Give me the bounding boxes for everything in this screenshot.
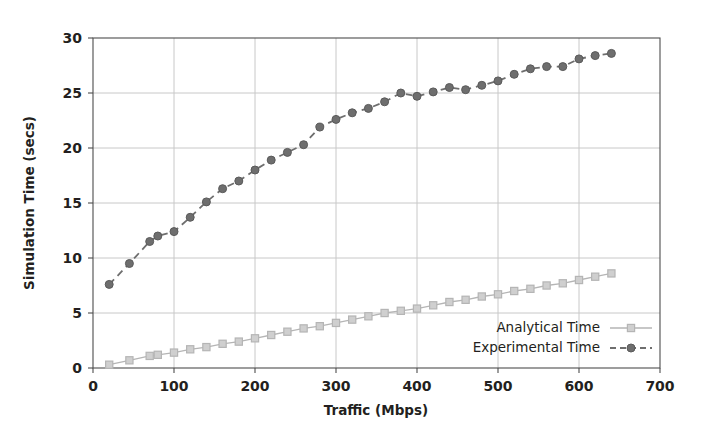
data-point-marker xyxy=(445,84,453,92)
data-point-marker xyxy=(235,338,242,345)
data-point-marker xyxy=(430,302,437,309)
data-point-marker xyxy=(397,307,404,314)
data-point-marker xyxy=(462,296,469,303)
x-tick-label: 600 xyxy=(564,378,593,394)
data-point-marker xyxy=(365,313,372,320)
data-point-marker xyxy=(413,92,421,100)
data-point-marker xyxy=(267,156,275,164)
data-point-marker xyxy=(397,89,405,97)
data-point-marker xyxy=(126,357,133,364)
data-point-marker xyxy=(332,115,340,123)
data-point-marker xyxy=(146,352,153,359)
data-point-marker xyxy=(510,70,518,78)
data-point-marker xyxy=(559,280,566,287)
data-point-marker xyxy=(154,351,161,358)
data-point-marker xyxy=(591,52,599,60)
data-point-marker xyxy=(413,305,420,312)
x-axis-title: Traffic (Mbps) xyxy=(324,402,428,418)
data-point-marker xyxy=(527,285,534,292)
data-point-marker xyxy=(316,323,323,330)
x-tick-label: 0 xyxy=(88,378,98,394)
data-point-marker xyxy=(348,109,356,117)
data-point-marker xyxy=(559,63,567,71)
data-point-marker xyxy=(284,328,291,335)
data-point-marker xyxy=(106,361,113,368)
x-tick-label: 200 xyxy=(240,378,269,394)
data-point-marker xyxy=(349,316,356,323)
data-point-marker xyxy=(170,228,178,236)
data-point-marker xyxy=(316,123,324,131)
data-point-marker xyxy=(219,340,226,347)
y-tick-label: 25 xyxy=(63,85,82,101)
chart-figure: 0100200300400500600700051015202530 Traff… xyxy=(0,0,706,438)
data-point-marker xyxy=(446,298,453,305)
legend-label-experimental-time: Experimental Time xyxy=(473,339,600,355)
data-point-marker xyxy=(575,55,583,63)
x-tick-label: 100 xyxy=(159,378,188,394)
x-tick-label: 700 xyxy=(645,378,674,394)
y-axis-title: Simulation Time (secs) xyxy=(21,116,37,290)
data-point-marker xyxy=(575,276,582,283)
data-point-marker xyxy=(478,293,485,300)
x-tick-label: 500 xyxy=(483,378,512,394)
data-point-marker xyxy=(235,177,243,185)
data-point-marker xyxy=(494,291,501,298)
data-point-marker xyxy=(381,98,389,106)
data-point-marker xyxy=(300,141,308,149)
y-tick-label: 0 xyxy=(72,360,82,376)
data-point-marker xyxy=(170,349,177,356)
data-point-marker xyxy=(125,260,133,268)
data-point-marker xyxy=(608,270,615,277)
data-point-marker xyxy=(543,282,550,289)
data-point-marker xyxy=(283,148,291,156)
data-point-marker xyxy=(462,86,470,94)
data-point-marker xyxy=(203,344,210,351)
data-point-marker xyxy=(607,49,615,57)
data-point-marker xyxy=(300,325,307,332)
y-tick-label: 10 xyxy=(63,250,83,266)
legend-marker-sample xyxy=(627,324,634,331)
x-tick-label: 300 xyxy=(321,378,350,394)
data-point-marker xyxy=(592,273,599,280)
data-point-marker xyxy=(543,63,551,71)
legend-label-analytical-time: Analytical Time xyxy=(496,319,600,335)
data-point-marker xyxy=(429,88,437,96)
data-point-marker xyxy=(511,287,518,294)
data-point-marker xyxy=(187,346,194,353)
data-point-marker xyxy=(268,331,275,338)
data-point-marker xyxy=(251,166,259,174)
data-point-marker xyxy=(251,335,258,342)
data-point-marker xyxy=(154,232,162,240)
data-point-marker xyxy=(146,238,154,246)
x-tick-label: 400 xyxy=(402,378,431,394)
y-tick-label: 30 xyxy=(63,30,83,46)
legend-marker-sample xyxy=(627,344,635,352)
data-point-marker xyxy=(105,280,113,288)
data-point-marker xyxy=(332,319,339,326)
data-point-marker xyxy=(186,213,194,221)
data-point-marker xyxy=(364,104,372,112)
data-point-marker xyxy=(219,185,227,193)
chart-background xyxy=(0,0,706,438)
y-tick-label: 15 xyxy=(63,195,82,211)
y-tick-label: 20 xyxy=(63,140,83,156)
y-tick-label: 5 xyxy=(72,305,82,321)
data-point-marker xyxy=(494,77,502,85)
data-point-marker xyxy=(478,81,486,89)
line-chart: 0100200300400500600700051015202530 Traff… xyxy=(0,0,706,438)
data-point-marker xyxy=(381,309,388,316)
data-point-marker xyxy=(526,65,534,73)
data-point-marker xyxy=(202,198,210,206)
